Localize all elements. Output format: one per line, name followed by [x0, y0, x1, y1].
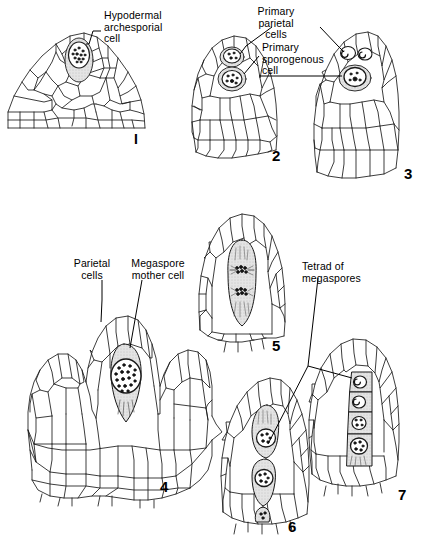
figure-2-primary-parietal-cell — [220, 47, 244, 67]
figure-number-1: I — [134, 131, 138, 147]
illustration-plate: Hypodermal archesporial cell Primary par… — [0, 0, 428, 551]
figure-3-drawing — [314, 32, 399, 178]
figure-5-dividing-megaspore-mother-cell — [228, 240, 256, 326]
figure-number-7: 7 — [398, 486, 406, 503]
label-primary-parietal-cells: Primary parietal cells — [249, 6, 303, 41]
leader-hypodermal — [89, 31, 101, 44]
figure-number-3: 3 — [404, 165, 412, 182]
figure-7-tetrad-of-megaspores — [347, 372, 372, 466]
leader-parietal-fig4 — [101, 280, 102, 322]
figure-1-archesporial-cell — [65, 38, 93, 82]
label-megaspore-mother-cell: Megaspore mother cell — [122, 258, 194, 281]
figure-4-megaspore-mother-cell — [111, 344, 141, 422]
figure-number-6: 6 — [288, 518, 296, 535]
leader-tetrad-stem — [308, 278, 318, 366]
label-primary-sporogenous-cell: Primary sporogenous cell — [262, 42, 324, 77]
leader-tetrad-to-fig6 — [268, 366, 308, 444]
label-parietal-cells: Parietal cells — [62, 258, 122, 281]
figure-2-primary-sporogenous-cell — [218, 67, 246, 91]
figure-3-primary-parietal-cells — [341, 47, 373, 61]
figure-number-4: 4 — [160, 478, 168, 495]
label-tetrad-of-megaspores: Tetrad of megaspores — [302, 261, 361, 284]
figure-number-5: 5 — [272, 337, 280, 354]
figure-3-primary-sporogenous-cell — [339, 65, 371, 91]
figure-number-2: 2 — [272, 147, 280, 164]
figure-6-dyad-megaspores — [252, 405, 279, 522]
label-hypodermal-archesporial-cell: Hypodermal archesporial cell — [104, 10, 162, 45]
